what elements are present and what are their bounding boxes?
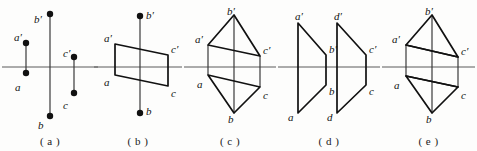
caption-e: ( e )	[380, 135, 477, 147]
endpoint-dot-b-prime-b-top	[137, 13, 143, 19]
panel-b: a′ab′bc′c( b )	[92, 0, 184, 151]
label-c: c	[171, 88, 176, 99]
label-a-prime: a′	[195, 34, 203, 45]
caption-a: ( a )	[0, 135, 100, 147]
label-b: b	[38, 120, 44, 131]
label-c: c	[461, 90, 466, 101]
endpoint-dot-c-prime-c-bottom	[71, 90, 77, 96]
label-b: b	[228, 114, 234, 125]
label-b-prime: b′	[329, 44, 337, 55]
label-a-prime: a′	[104, 33, 112, 44]
panel-e-drawing	[380, 0, 477, 126]
label-b-prime: b′	[227, 6, 235, 17]
panel-d-drawing	[276, 0, 382, 126]
label-a-prime: a′	[295, 11, 303, 22]
panel-b-drawing	[92, 0, 184, 126]
label-d-prime: d′	[334, 11, 342, 22]
label-b-prime: b′	[146, 10, 154, 21]
label-d: d	[327, 112, 333, 123]
panel-a: a′ab′bc′c( a )	[0, 0, 100, 151]
label-c-prime: c′	[63, 48, 70, 59]
panel-e: a′ab′bc′c( e )	[380, 0, 477, 151]
label-b: b	[146, 106, 152, 117]
quad-left	[298, 23, 326, 113]
label-c: c	[369, 86, 374, 97]
label-b: b	[426, 114, 432, 125]
label-a: a	[394, 80, 400, 91]
quad-outline	[115, 44, 168, 86]
label-b: b	[329, 86, 335, 97]
endpoint-dot-b-prime-b-top	[47, 11, 53, 17]
label-c-prime: c′	[369, 44, 376, 55]
label-b-prime: b′	[425, 6, 433, 17]
label-b-prime: b′	[34, 14, 42, 25]
endpoint-dot-c-prime-c-top	[71, 54, 77, 60]
figure-root: a′ab′bc′c( a )a′ab′bc′c( b )a′ab′bc′c( c…	[0, 0, 477, 151]
label-a: a	[288, 112, 294, 123]
panel-c: a′ab′bc′c( c )	[182, 0, 278, 151]
endpoint-dot-a-prime-a-top	[23, 40, 29, 46]
label-a: a	[104, 77, 110, 88]
label-c-prime: c′	[263, 45, 270, 56]
label-a-prime: a′	[14, 32, 22, 43]
panel-d: a′ab′bd′dc′c( d )	[276, 0, 382, 151]
panel-a-drawing	[0, 0, 100, 126]
endpoint-dot-a-prime-a-bottom	[23, 70, 29, 76]
label-a-prime: a′	[392, 34, 400, 45]
label-c-prime: c′	[171, 44, 178, 55]
caption-b: ( b )	[92, 135, 184, 147]
quad-right	[337, 23, 366, 113]
endpoint-dot-b-prime-b-bottom	[137, 110, 143, 116]
label-a: a	[197, 79, 203, 90]
caption-d: ( d )	[276, 135, 382, 147]
label-c-prime: c′	[461, 46, 468, 57]
panel-c-drawing	[182, 0, 278, 126]
endpoint-dot-b-prime-b-bottom	[47, 113, 53, 119]
caption-c: ( c )	[182, 135, 278, 147]
label-c: c	[63, 100, 68, 111]
label-a: a	[15, 82, 21, 93]
label-c: c	[263, 90, 268, 101]
